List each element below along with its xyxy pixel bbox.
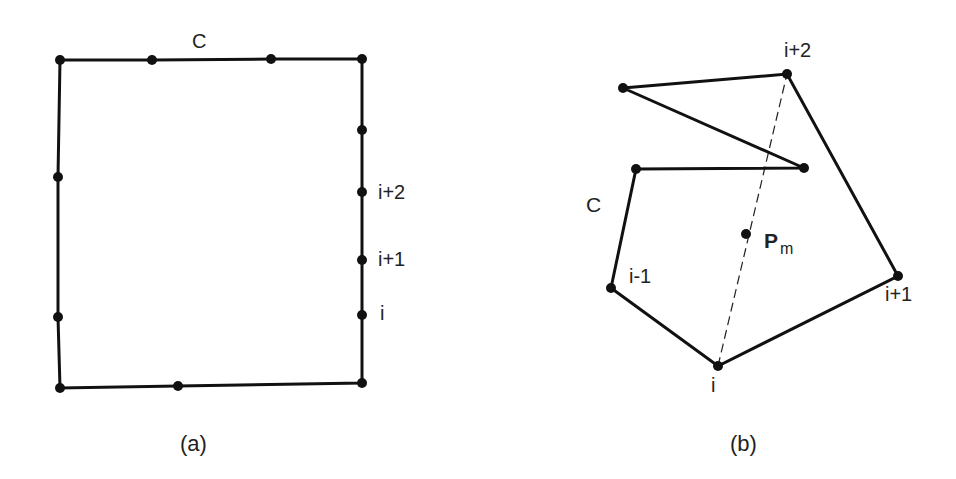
figure-canvas: C i+2 i+1 i (a) P m C i-1 i i+1 i+2 (b) bbox=[0, 0, 956, 479]
vertex-dot bbox=[173, 381, 183, 391]
vertex-dot bbox=[618, 83, 628, 93]
vertex-dot bbox=[357, 187, 367, 197]
vertex-dot bbox=[357, 310, 367, 320]
vertex-dot bbox=[893, 271, 903, 281]
point-pm bbox=[741, 229, 751, 239]
vertex-dot bbox=[357, 125, 367, 135]
vertex-label-i: i bbox=[380, 302, 384, 324]
vertex-dot bbox=[147, 55, 157, 65]
vertex-label-i-plus-1-b: i+1 bbox=[885, 283, 912, 305]
vertex-label-i-minus-1: i-1 bbox=[629, 265, 651, 287]
vertex-label-i-b: i bbox=[711, 374, 715, 396]
vertices-a bbox=[53, 54, 367, 393]
caption-b: (b) bbox=[730, 431, 757, 456]
vertex-dot bbox=[357, 378, 367, 388]
vertex-dot bbox=[606, 283, 616, 293]
vertex-dot bbox=[55, 383, 65, 393]
vertex-dot bbox=[782, 69, 792, 79]
caption-a: (a) bbox=[180, 431, 207, 456]
point-label-subscript-m: m bbox=[780, 240, 793, 257]
vertex-label-i-plus-1: i+1 bbox=[378, 248, 405, 270]
vertex-dot bbox=[713, 361, 723, 371]
curve-label-b: C bbox=[586, 193, 601, 216]
curve-label-a: C bbox=[192, 30, 206, 52]
figure-a: C i+2 i+1 i (a) bbox=[53, 30, 405, 456]
closed-curve-b bbox=[611, 74, 898, 366]
point-label-p: P bbox=[764, 229, 778, 252]
figure-b: P m C i-1 i i+1 i+2 (b) bbox=[586, 39, 912, 456]
vertex-dot bbox=[266, 54, 276, 64]
vertex-label-i-plus-2-b: i+2 bbox=[784, 39, 811, 61]
vertex-dot bbox=[357, 54, 367, 64]
vertex-label-i-plus-2: i+2 bbox=[378, 181, 405, 203]
dashed-line-i-to-i-plus-2 bbox=[718, 74, 787, 366]
vertices-b bbox=[606, 69, 903, 371]
vertex-dot bbox=[357, 255, 367, 265]
vertex-dot bbox=[631, 164, 641, 174]
vertex-dot bbox=[55, 55, 65, 65]
closed-curve-a bbox=[58, 59, 362, 388]
vertex-dot bbox=[53, 312, 63, 322]
vertex-dot bbox=[53, 172, 63, 182]
vertex-dot bbox=[799, 163, 809, 173]
